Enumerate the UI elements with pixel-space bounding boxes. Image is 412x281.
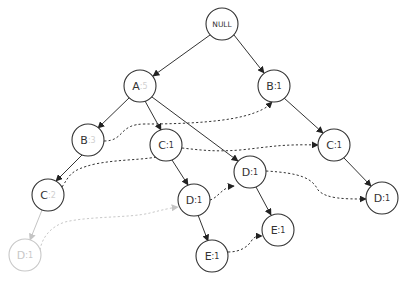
nodes: NULL A:5 B:1 B:3 C:1 C:1 C:2 D:1 — [9, 8, 398, 272]
edge-a-c — [145, 101, 161, 130]
link-c-mid-to-right — [182, 145, 318, 151]
link-e — [228, 236, 262, 252]
link-d-right — [266, 171, 366, 199]
node-null-label: NULL — [212, 20, 232, 29]
node-c-under-a[interactable]: C:1 — [150, 129, 182, 161]
edge-c-d-faded — [30, 210, 42, 240]
edge-c-d — [172, 160, 188, 185]
link-b — [104, 102, 272, 141]
edge-a-b — [98, 97, 130, 128]
node-c-under-b1[interactable]: C:1 — [318, 129, 350, 161]
node-d-under-c1[interactable]: D:1 — [366, 182, 398, 214]
node-b1[interactable]: B:1 — [258, 70, 290, 102]
edge-null-a — [153, 35, 210, 76]
link-d-mid-to-right — [210, 186, 234, 200]
link-c-left-to-mid — [62, 157, 162, 187]
node-e-under-d-right[interactable]: E:1 — [262, 214, 294, 246]
node-d-under-a[interactable]: D:1 — [234, 156, 266, 188]
edge-c1-d — [344, 158, 371, 186]
node-e-under-d-mid[interactable]: E:1 — [196, 240, 228, 272]
edge-b1-c — [284, 98, 323, 133]
edge-null-b1 — [234, 35, 264, 73]
fp-tree-diagram: NULL A:5 B:1 B:3 C:1 C:1 C:2 D:1 — [0, 0, 412, 281]
edge-d-e-right — [256, 187, 271, 215]
node-c-under-b[interactable]: C:2 — [32, 179, 64, 211]
node-null[interactable]: NULL — [206, 8, 238, 40]
node-d-faded[interactable]: D:1 — [9, 239, 41, 271]
node-d-under-c[interactable]: D:1 — [178, 184, 210, 216]
node-b-under-a[interactable]: B:3 — [72, 124, 104, 156]
link-d-faded — [40, 207, 178, 250]
edge-d-e-bottom — [198, 215, 208, 241]
node-a[interactable]: A:5 — [124, 70, 156, 102]
edge-b-c — [56, 155, 82, 181]
